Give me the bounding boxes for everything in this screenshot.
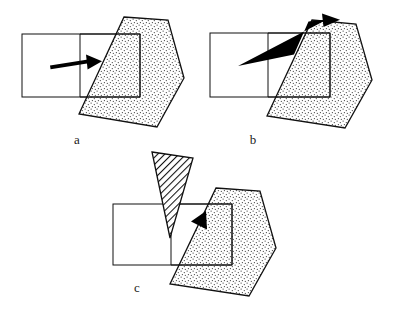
- panel-c: c: [113, 152, 276, 296]
- diagram-canvas: a b: [0, 0, 396, 314]
- panel-b-label: b: [250, 132, 257, 147]
- panel-a-horizontal-arrow: [50, 55, 102, 70]
- panel-c-label: c: [134, 280, 140, 295]
- panel-c-incoming-arrow-segment: [140, 236, 181, 261]
- panel-a: a: [22, 17, 184, 147]
- panel-a-label: a: [74, 132, 80, 147]
- panel-b-stippled-block: [267, 20, 372, 128]
- figure-root: a b: [0, 0, 396, 314]
- panel-b: b: [210, 14, 372, 148]
- panel-c-hatched-wedge: [152, 152, 193, 238]
